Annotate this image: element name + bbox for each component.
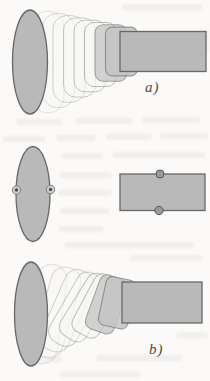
panel-b: b) (0, 125, 210, 250)
rectangle-cross-section (122, 282, 202, 323)
panel-a: a) (0, 0, 210, 125)
scanned-book-page: a) b) (0, 0, 210, 381)
panel-c: c) (0, 250, 210, 381)
ellipse-cross-section (15, 262, 48, 366)
rectangle-cross-section (120, 174, 205, 211)
twisted-morph-diagram-c (0, 250, 210, 381)
marked-sections-diagram-b (0, 125, 210, 250)
ellipse-cross-section (13, 10, 48, 114)
morph-diagram-a (0, 0, 210, 125)
filled-dot-marker-top (156, 170, 164, 178)
panel-a-label: a) (145, 79, 160, 96)
ellipse-cross-section (16, 147, 50, 242)
circled-dot-marker-left (12, 186, 20, 194)
circled-dot-marker-right (46, 185, 54, 193)
filled-dot-marker-bottom (155, 206, 163, 214)
rectangle-cross-section (120, 32, 206, 72)
